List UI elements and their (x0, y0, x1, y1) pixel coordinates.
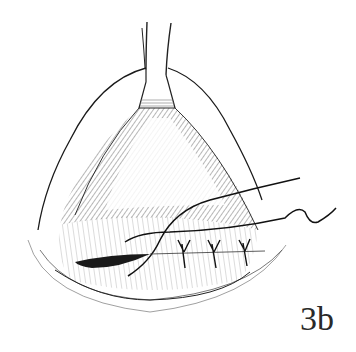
retractor (139, 22, 175, 108)
figure-label: 3b (300, 302, 334, 336)
illustration-canvas: 3b (0, 0, 356, 352)
tissue-bed (55, 108, 258, 300)
